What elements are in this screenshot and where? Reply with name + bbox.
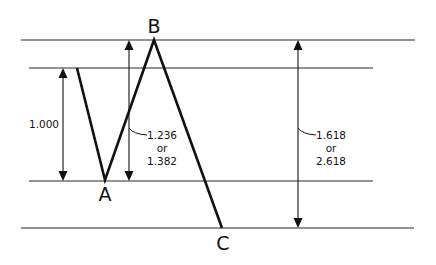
ratio-label-or-2: or: [326, 142, 337, 154]
ratio-label-1236: 1.236: [147, 129, 177, 141]
arrow-up-icon: [59, 68, 68, 78]
arrow-down-icon: [294, 218, 303, 228]
arrow-up-icon: [294, 40, 303, 50]
ratio-label-or-1: or: [157, 142, 168, 154]
leader-line: [129, 128, 147, 135]
point-label-a: A: [99, 183, 112, 205]
ratio-label-1382: 1.382: [147, 155, 177, 167]
leader-line: [298, 128, 316, 135]
measure-1236-arrow: [125, 40, 148, 181]
ratio-label-2618: 2.618: [316, 155, 346, 167]
point-label-c: C: [216, 232, 229, 254]
measure-1000-arrow: [59, 68, 68, 181]
ratio-label-1000: 1.000: [29, 118, 59, 130]
arrow-down-icon: [125, 171, 134, 181]
arrow-down-icon: [59, 171, 68, 181]
point-label-b: B: [147, 15, 160, 37]
ratio-label-1618: 1.618: [316, 129, 346, 141]
level-lines: [21, 40, 415, 228]
abc-fibonacci-diagram: A B C 1.000 1.236 or 1.382 1.618 or 2.61…: [0, 0, 436, 265]
arrow-up-icon: [125, 40, 134, 50]
